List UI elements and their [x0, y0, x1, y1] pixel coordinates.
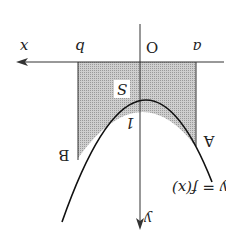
area-s-label: S [117, 80, 127, 98]
a-label: a [193, 38, 202, 56]
point-b-label: B [58, 146, 69, 164]
origin-label: O [146, 38, 158, 56]
graph-canvas: x b O a S 1 B A y = f(x) y [0, 0, 226, 242]
diagram: x b O a S 1 B A y = f(x) y [0, 0, 226, 242]
b-label: b [75, 38, 85, 56]
x-axis-label: x [19, 38, 28, 56]
curve-label: y = f(x) [172, 179, 226, 197]
y-axis-label: y [143, 211, 153, 227]
point-a-label: A [203, 132, 215, 150]
y-intercept-label: 1 [126, 115, 135, 131]
